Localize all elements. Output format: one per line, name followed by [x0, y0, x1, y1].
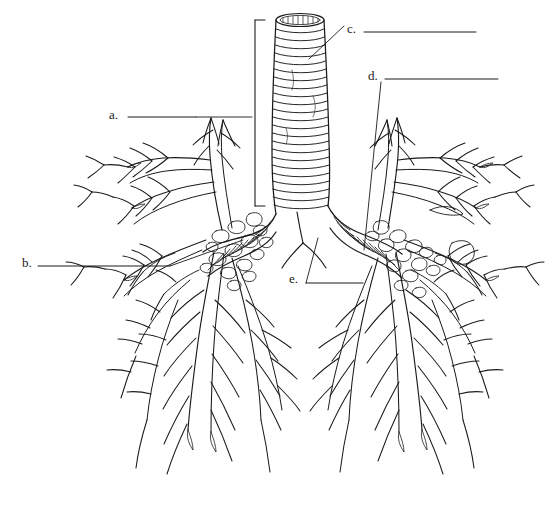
figure-canvas: a. b. c. d. e.: [0, 0, 559, 519]
label-e: e.: [289, 272, 298, 285]
label-d: d.: [368, 69, 378, 82]
cartilage-rings: [272, 29, 330, 209]
respiratory-tree-drawing: [0, 0, 559, 519]
carina-and-primary-bronchi: [203, 206, 402, 278]
label-c: c.: [347, 22, 356, 35]
trachea-lumen-striations: [283, 16, 318, 24]
label-a: a.: [109, 108, 118, 121]
trachea: [272, 14, 330, 215]
leader-line-e: [306, 238, 318, 283]
trachea-bracket: [255, 20, 265, 206]
leader-line-c: [309, 26, 344, 59]
label-b: b.: [22, 256, 32, 269]
right-bronchial-tree: [310, 118, 544, 474]
left-bronchial-tree: [66, 118, 300, 474]
cartilage-plates: [200, 213, 446, 298]
